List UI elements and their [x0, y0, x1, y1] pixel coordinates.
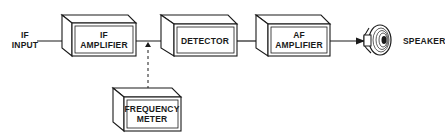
- af-amplifier-block: AF AMPLIFIER: [256, 15, 330, 56]
- svg-text:AMPLIFIER: AMPLIFIER: [80, 40, 128, 50]
- svg-text:INPUT: INPUT: [12, 40, 39, 50]
- svg-text:IF: IF: [21, 30, 29, 40]
- speaker-label: SPEAKER: [403, 36, 445, 46]
- frequency-meter-block: FREQUENCY METER: [113, 88, 181, 131]
- if-input-label: IF INPUT: [12, 30, 39, 50]
- svg-text:AF: AF: [293, 30, 305, 40]
- svg-text:IF: IF: [100, 30, 108, 40]
- svg-text:DETECTOR: DETECTOR: [181, 36, 229, 46]
- detector-block: DETECTOR: [161, 15, 237, 56]
- speaker-icon: [364, 25, 391, 55]
- if-amplifier-block: IF AMPLIFIER: [62, 15, 136, 56]
- dashed-link-arrowhead: [145, 42, 151, 47]
- svg-text:AMPLIFIER: AMPLIFIER: [275, 40, 323, 50]
- block-diagram: IF INPUT IF AMPLIFIER DETECTOR AF AMPLIF…: [0, 0, 445, 140]
- svg-text:METER: METER: [137, 114, 168, 124]
- svg-text:FREQUENCY: FREQUENCY: [124, 104, 179, 114]
